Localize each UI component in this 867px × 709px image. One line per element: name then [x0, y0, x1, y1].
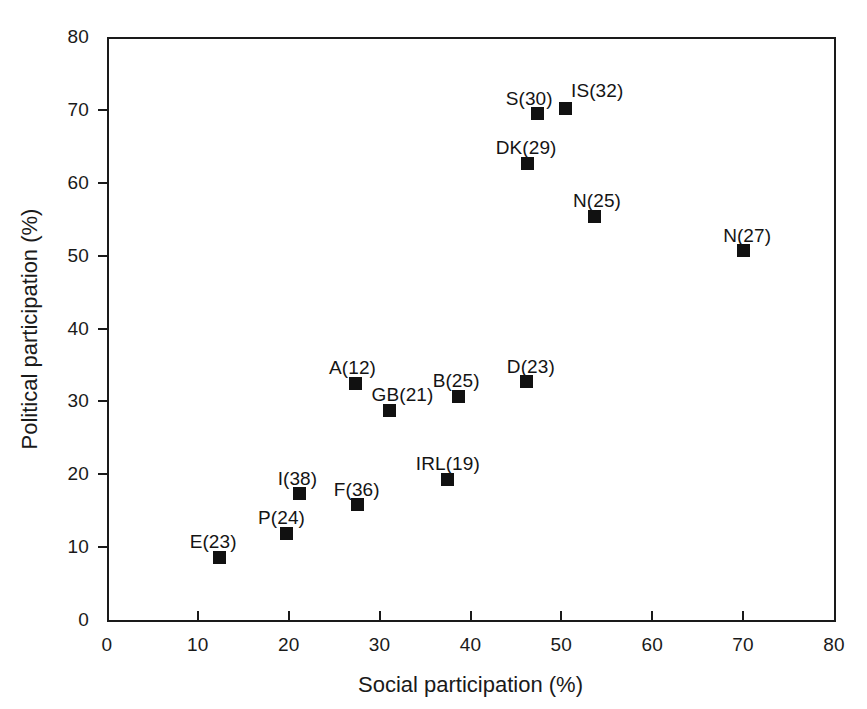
- x-axis-tick-mark: [197, 611, 199, 621]
- data-point-label: E(23): [190, 531, 237, 553]
- x-axis-tick-label: 10: [187, 634, 209, 656]
- y-axis-tick-mark: [98, 255, 108, 257]
- y-axis-tick-mark: [98, 328, 108, 330]
- y-axis-tick-mark: [98, 182, 108, 184]
- scatter-chart-figure: 01020304050607080 01020304050607080 E(23…: [0, 0, 867, 709]
- y-axis-tick-label: 70: [67, 99, 89, 121]
- x-axis-tick-label: 70: [732, 634, 754, 656]
- y-axis-tick-label: 20: [67, 463, 89, 485]
- data-point-label: D(23): [507, 356, 555, 378]
- data-point-label: DK(29): [496, 137, 557, 159]
- y-axis-tick-label: 30: [67, 390, 89, 412]
- x-axis-tick-mark: [379, 611, 381, 621]
- data-point-label: IRL(19): [416, 453, 480, 475]
- y-axis-tick-label: 0: [78, 609, 89, 631]
- y-axis-tick-label: 80: [67, 26, 89, 48]
- y-axis-tick-label: 50: [67, 245, 89, 267]
- data-point-label: P(24): [258, 507, 305, 529]
- y-axis-tick-label: 60: [67, 172, 89, 194]
- x-axis-tick-mark: [470, 611, 472, 621]
- y-axis-title: Political participation (%): [17, 208, 43, 449]
- y-axis-tick-mark: [98, 473, 108, 475]
- x-axis-tick-label: 60: [641, 634, 663, 656]
- x-axis-tick-label: 50: [551, 634, 573, 656]
- x-axis-tick-mark: [651, 611, 653, 621]
- data-point-label: IS(32): [571, 80, 623, 102]
- x-axis-tick-mark: [288, 611, 290, 621]
- y-axis-tick-mark: [98, 400, 108, 402]
- data-point-marker: [559, 102, 572, 115]
- data-point-label: N(27): [723, 225, 771, 247]
- x-axis-tick-label: 20: [278, 634, 300, 656]
- x-axis-tick-mark: [742, 611, 744, 621]
- x-axis-tick-label: 30: [369, 634, 391, 656]
- x-axis-tick-label: 80: [823, 634, 845, 656]
- x-axis-title: Social participation (%): [358, 672, 583, 698]
- x-axis-tick-mark: [560, 611, 562, 621]
- x-axis-tick-label: 0: [102, 634, 113, 656]
- y-axis-tick-label: 40: [67, 318, 89, 340]
- y-axis-tick-mark: [98, 546, 108, 548]
- data-point-label: I(38): [278, 468, 318, 490]
- y-axis-tick-mark: [98, 109, 108, 111]
- data-point-label: F(36): [334, 479, 380, 501]
- data-point-label: GB(21): [372, 384, 434, 406]
- data-point-label: N(25): [573, 190, 621, 212]
- data-point-label: S(30): [506, 88, 553, 110]
- y-axis-tick-label: 10: [67, 536, 89, 558]
- x-axis-tick-label: 40: [460, 634, 482, 656]
- data-point-label: B(25): [433, 370, 480, 392]
- data-point-label: A(12): [329, 357, 376, 379]
